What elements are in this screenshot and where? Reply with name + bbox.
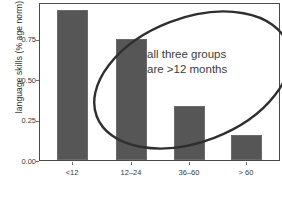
y-tick-label-050: 0.50 — [10, 77, 36, 85]
bar-12-24 — [116, 39, 147, 160]
x-tick-mark-lt-12 — [72, 162, 73, 165]
y-tick-label-000: 0.00 — [10, 158, 36, 166]
x-tick-mark-gt-60 — [246, 162, 247, 165]
x-tick-mark-36-60 — [189, 162, 190, 165]
annotation-text: all three groups are >12 months — [147, 47, 227, 76]
x-tick-label-lt-12: <12 — [52, 168, 92, 177]
x-tick-label-12-24: 12–24 — [111, 168, 151, 177]
plot-area — [39, 3, 280, 161]
x-tick-mark-12-24 — [131, 162, 132, 165]
bar-36-60 — [174, 106, 205, 160]
bar-lt-12 — [57, 10, 88, 160]
x-tick-label-36-60: 36–60 — [169, 168, 209, 177]
bar-chart-figure: language skills (% age norm) 0.75 0.50 0… — [0, 0, 282, 199]
y-axis-ticks: 0.75 0.50 0.25 0.00 — [6, 0, 36, 199]
x-tick-label-gt-60: > 60 — [226, 168, 266, 177]
annotation-line-2: are >12 months — [147, 62, 227, 77]
y-tick-mark-000 — [36, 161, 39, 162]
bar-gt-60 — [231, 135, 262, 160]
y-tick-label-025: 0.25 — [10, 117, 36, 125]
y-tick-label-075: 0.75 — [10, 36, 36, 44]
annotation-line-1: all three groups — [147, 47, 227, 62]
